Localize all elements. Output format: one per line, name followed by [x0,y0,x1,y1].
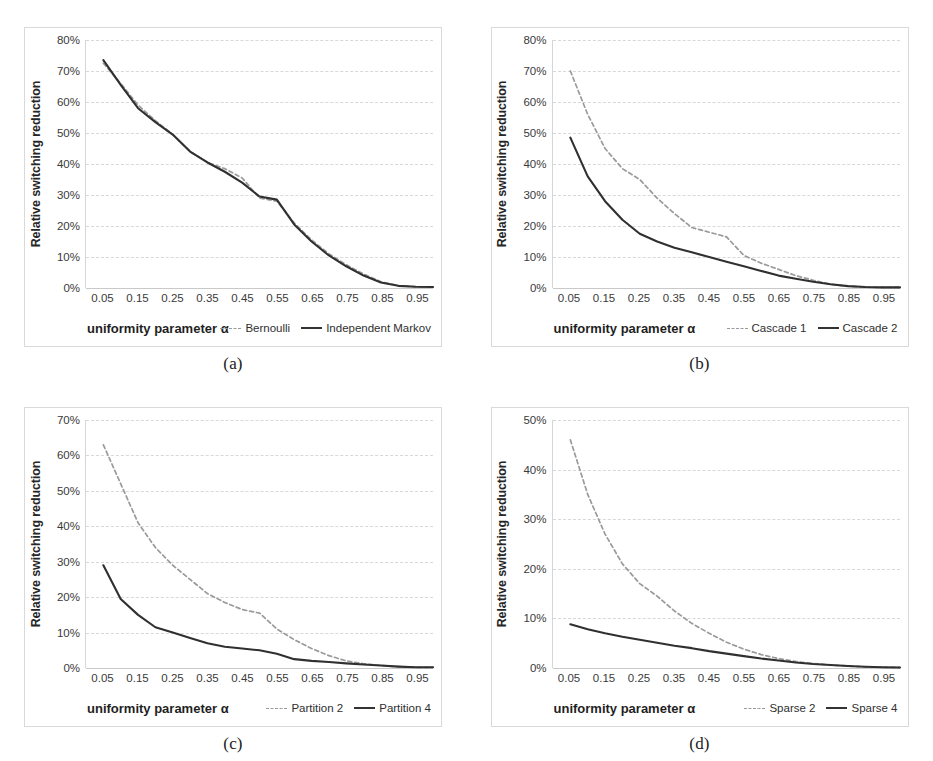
chart-legend: Partition 2Partition 4 [266,702,431,714]
x-tick-label: 0.95 [873,672,895,684]
y-axis-title-label: Relative switching reduction [29,81,43,248]
y-tick-label: 70% [523,65,546,77]
x-axis-ticks: 0.050.150.250.350.450.550.650.750.850.95 [552,672,900,690]
x-tick-label: 0.05 [91,672,113,684]
plot-area [85,420,433,668]
y-tick-label: 60% [57,449,80,461]
x-axis-title: uniformity parameter α [87,701,229,716]
series-line-partition-2 [103,445,433,667]
y-tick-label: 10% [523,612,546,624]
legend-label: Partition 2 [291,702,343,714]
x-axis-ticks: 0.050.150.250.350.450.550.650.750.850.95 [85,672,433,690]
x-tick-label: 0.75 [336,672,358,684]
legend-label: Independent Markov [326,322,431,334]
series-canvas [553,40,900,288]
y-tick-label: 40% [523,158,546,170]
x-tick-label: 0.85 [371,672,393,684]
plot-area [552,40,900,288]
series-canvas [86,40,433,288]
chart-area: Relative switching reduction0%10%20%30%4… [491,27,909,347]
x-axis-title: uniformity parameter α [87,321,229,336]
legend-item[interactable]: Independent Markov [301,322,431,334]
y-tick-label: 30% [523,513,546,525]
x-tick-label: 0.45 [231,292,253,304]
series-line-bernoulli [103,63,433,287]
plot-area [552,420,900,668]
y-axis-title-label: Relative switching reduction [29,461,43,628]
y-tick-label: 50% [57,485,80,497]
x-axis-ticks: 0.050.150.250.350.450.550.650.750.850.95 [85,292,433,310]
y-axis-ticks: 0%10%20%30%40%50%60%70%80% [510,28,550,300]
chart-area: Relative switching reduction0%10%20%30%4… [24,407,442,727]
legend-item[interactable]: Sparse 2 [744,702,815,714]
series-line-cascade-1 [570,71,900,287]
x-tick-label: 0.85 [371,292,393,304]
y-tick-label: 80% [57,34,80,46]
y-tick-label: 80% [523,34,546,46]
x-tick-label: 0.85 [838,292,860,304]
x-tick-label: 0.65 [301,292,323,304]
legend-item[interactable]: Cascade 2 [818,322,898,334]
dashed-line-icon [220,328,241,329]
y-tick-label: 30% [57,556,80,568]
x-tick-label: 0.05 [558,292,580,304]
x-tick-label: 0.25 [161,672,183,684]
x-tick-label: 0.15 [126,292,148,304]
y-tick-label: 40% [523,464,546,476]
panel-caption: (d) [689,734,709,754]
y-tick-label: 10% [57,251,80,263]
legend-item[interactable]: Sparse 4 [826,702,897,714]
y-tick-label: 30% [523,189,546,201]
axis-title-legend-row: uniformity parameter αCascade 1Cascade 2 [492,316,908,340]
chart-legend: Cascade 1Cascade 2 [727,322,898,334]
legend-item[interactable]: Bernoulli [220,322,290,334]
x-tick-label: 0.75 [803,672,825,684]
chart-area: Relative switching reduction0%10%20%30%4… [24,27,442,347]
gridline [553,668,900,669]
solid-line-icon [354,707,375,709]
legend-label: Sparse 2 [769,702,815,714]
y-tick-label: 40% [57,158,80,170]
series-line-independent-markov [103,60,433,287]
x-tick-label: 0.05 [558,672,580,684]
x-tick-label: 0.95 [873,292,895,304]
legend-item[interactable]: Cascade 1 [727,322,807,334]
x-tick-label: 0.15 [593,292,615,304]
y-tick-label: 0% [63,282,80,294]
x-tick-label: 0.05 [91,292,113,304]
x-tick-label: 0.65 [768,292,790,304]
x-tick-label: 0.45 [231,672,253,684]
legend-item[interactable]: Partition 2 [266,702,343,714]
chart-area: Relative switching reduction0%10%20%30%4… [491,407,909,727]
x-axis-title: uniformity parameter α [554,321,696,336]
x-tick-label: 0.55 [733,672,755,684]
y-tick-label: 70% [57,414,80,426]
x-tick-label: 0.35 [663,672,685,684]
legend-item[interactable]: Partition 4 [354,702,431,714]
legend-label: Cascade 2 [843,322,898,334]
y-tick-label: 50% [523,414,546,426]
x-tick-label: 0.95 [406,292,428,304]
x-tick-label: 0.55 [266,672,288,684]
axis-title-legend-row: uniformity parameter αSparse 2Sparse 4 [492,696,908,720]
panel-caption: (c) [223,734,242,754]
x-axis-ticks: 0.050.150.250.350.450.550.650.750.850.95 [552,292,900,310]
legend-label: Sparse 4 [851,702,897,714]
y-tick-label: 20% [57,591,80,603]
x-tick-label: 0.45 [698,292,720,304]
x-tick-label: 0.25 [628,672,650,684]
x-tick-label: 0.55 [266,292,288,304]
chart-legend: Sparse 2Sparse 4 [744,702,897,714]
x-tick-label: 0.85 [838,672,860,684]
y-tick-label: 40% [57,520,80,532]
y-tick-label: 10% [57,627,80,639]
y-tick-label: 60% [523,96,546,108]
x-tick-label: 0.25 [628,292,650,304]
x-tick-label: 0.35 [663,292,685,304]
x-tick-label: 0.65 [768,672,790,684]
chart-panel-b: Relative switching reduction0%10%20%30%4… [466,0,933,380]
chart-panel-c: Relative switching reduction0%10%20%30%4… [0,380,466,761]
y-axis-ticks: 0%10%20%30%40%50%60%70% [43,408,83,680]
x-tick-label: 0.15 [593,672,615,684]
gridline [553,288,900,289]
